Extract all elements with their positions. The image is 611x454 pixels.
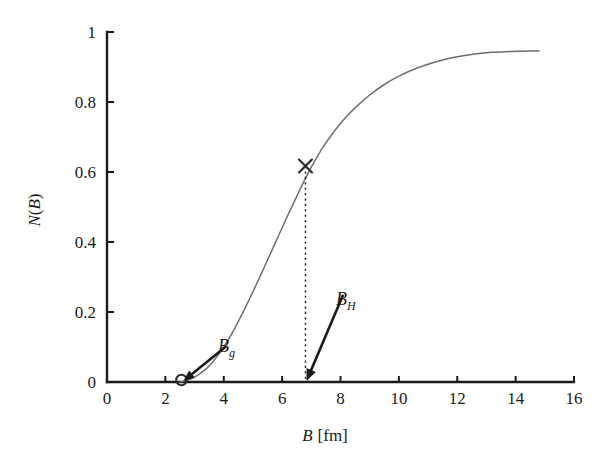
y-tick-label: 0 [88, 373, 97, 392]
axes-group [107, 32, 574, 382]
y-tick-label: 1 [88, 23, 97, 42]
x-axis-tick-labels: 0246810121416 [103, 389, 583, 408]
x-tick-label: 12 [449, 389, 466, 408]
bh-subscript: H [346, 299, 357, 313]
x-axis-symbol: B [302, 426, 313, 445]
x-axis-title: B[fm] [302, 426, 348, 445]
bg-symbol: B [218, 336, 229, 356]
plot-canvas: 0246810121416 00.20.40.60.81 Bg BH B[fm [0, 0, 611, 454]
bh-annotation-label: BH [336, 289, 357, 313]
y-axis-title: N(B) [25, 193, 44, 227]
x-tick-label: 6 [278, 389, 287, 408]
x-tick-label: 10 [390, 389, 407, 408]
bg-annotation-label: Bg [218, 336, 235, 360]
y-tick-label: 0.4 [75, 233, 97, 252]
x-tick-label: 2 [161, 389, 170, 408]
x-tick-label: 14 [507, 389, 525, 408]
x-tick-label: 0 [103, 389, 112, 408]
bh-arrow-head [306, 368, 315, 381]
y-axis-paren-close: ) [25, 193, 44, 199]
y-tick-label: 0.6 [75, 163, 96, 182]
x-tick-label: 8 [336, 389, 345, 408]
y-axis-symbol-b: B [25, 199, 44, 210]
bh-symbol: B [336, 289, 347, 309]
x-tick-label: 4 [220, 389, 229, 408]
data-curve-line [180, 51, 539, 382]
x-tick-label: 16 [566, 389, 583, 408]
chart-figure: 0246810121416 00.20.40.60.81 Bg BH B[fm [0, 0, 611, 454]
x-axis-unit: [fm] [318, 426, 348, 445]
bg-subscript: g [229, 346, 235, 360]
cross-marker [299, 160, 312, 173]
y-axis-tick-labels: 00.20.40.60.81 [75, 23, 97, 392]
y-tick-label: 0.2 [75, 303, 96, 322]
y-tick-label: 0.8 [75, 93, 96, 112]
